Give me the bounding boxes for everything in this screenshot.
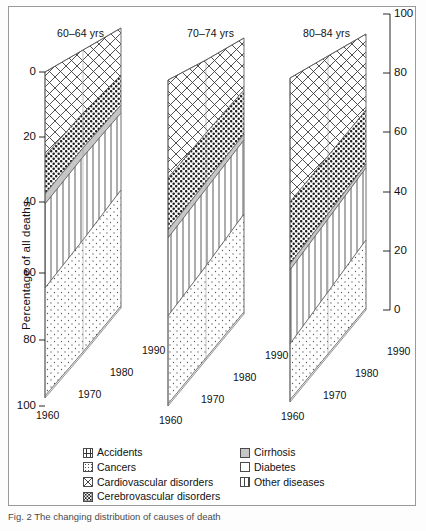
legend-label-cerebrovascular: Cerebrovascular disorders (97, 491, 220, 502)
panel2-year-1980: 1980 (233, 371, 256, 383)
legend: Accidents Cancers Cardiovascular disorde… (0, 446, 426, 504)
legend-label-diabetes: Diabetes (254, 462, 295, 473)
panel2-year-1990: 1990 (265, 349, 288, 361)
panel2-year-1970: 1970 (201, 393, 224, 405)
panel-title-60-64: 60–64 yrs (57, 27, 104, 39)
panel2-year-1960: 1960 (159, 414, 182, 426)
panel1-year-1970: 1970 (78, 388, 101, 400)
panel1-year-1990: 1990 (142, 344, 165, 356)
legend-label-accidents: Accidents (97, 447, 143, 458)
other-diseases-swatch-icon (240, 477, 250, 487)
y2-tick-80: 80 (394, 66, 426, 78)
y2-tick-100: 100 (394, 7, 426, 19)
y-tick-40: 40 (2, 195, 36, 207)
cirrhosis-swatch-icon (240, 448, 250, 458)
cancers-swatch-icon (83, 462, 93, 472)
panel1-year-1960: 1960 (36, 409, 59, 421)
legend-item-cirrhosis[interactable]: Cirrhosis (240, 446, 325, 460)
y-tick-100: 100 (2, 399, 36, 411)
legend-item-other-diseases[interactable]: Other diseases (240, 475, 325, 489)
right-axis (383, 14, 390, 310)
legend-item-cancers[interactable]: Cancers (83, 461, 220, 475)
legend-label-cirrhosis: Cirrhosis (254, 447, 295, 458)
legend-label-cancers: Cancers (97, 462, 136, 473)
panel-title-70-74: 70–74 yrs (187, 27, 234, 39)
y-tick-80: 80 (2, 333, 36, 345)
legend-label-other-diseases: Other diseases (254, 477, 325, 488)
legend-item-diabetes[interactable]: Diabetes (240, 461, 325, 475)
panel-title-80-84: 80–84 yrs (303, 27, 350, 39)
figure-caption: Fig. 2 The changing distribution of caus… (8, 511, 418, 522)
panel-70-74 (168, 38, 244, 406)
figure-container: Percentage of all deaths 0 20 40 60 80 1… (0, 0, 426, 531)
y-tick-0: 0 (2, 65, 36, 77)
legend-item-cardiovascular[interactable]: Cardiovascular disorders (83, 475, 220, 489)
y-tick-20: 20 (2, 130, 36, 142)
legend-item-cerebrovascular[interactable]: Cerebrovascular disorders (83, 490, 220, 504)
legend-column-right: Cirrhosis Diabetes Other diseases (240, 446, 325, 490)
legend-label-cardiovascular: Cardiovascular disorders (97, 477, 213, 488)
panel3-year-1990: 1990 (387, 345, 410, 357)
panel-80-84 (290, 34, 366, 402)
left-axis (39, 72, 45, 406)
cardiovascular-swatch-icon (83, 477, 93, 487)
y2-tick-40: 40 (394, 185, 426, 197)
y-tick-60: 60 (2, 266, 36, 278)
cerebrovascular-swatch-icon (83, 492, 93, 502)
accidents-swatch-icon (83, 448, 93, 458)
y2-tick-20: 20 (394, 244, 426, 256)
legend-item-accidents[interactable]: Accidents (83, 446, 220, 460)
panel-60-64 (45, 6, 159, 398)
panel3-year-1970: 1970 (323, 389, 346, 401)
panel3-year-1980: 1980 (355, 367, 378, 379)
y2-tick-60: 60 (394, 125, 426, 137)
legend-column-left: Accidents Cancers Cardiovascular disorde… (83, 446, 220, 505)
panel1-year-1980: 1980 (110, 366, 133, 378)
diabetes-swatch-icon (240, 462, 250, 472)
panel3-year-1960: 1960 (281, 410, 304, 422)
y2-tick-0: 0 (394, 303, 426, 315)
